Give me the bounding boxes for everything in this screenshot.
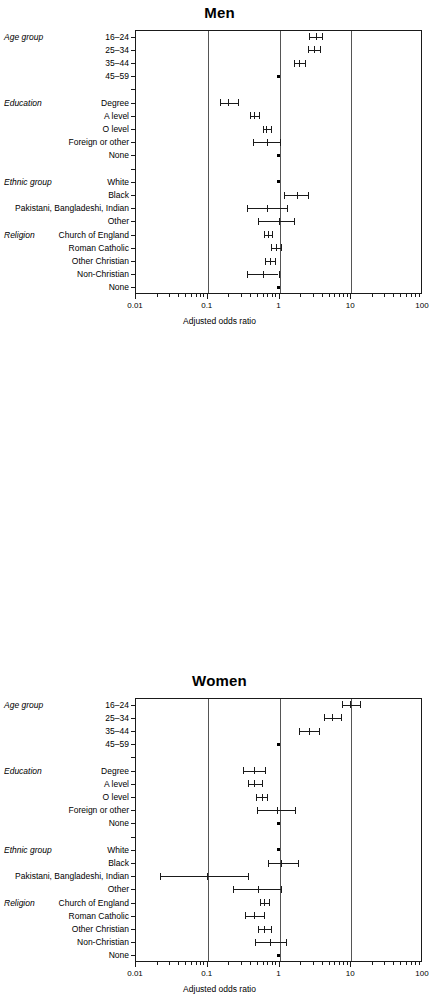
- row-label: 45–59: [105, 740, 129, 749]
- point-estimate-marker: [281, 860, 282, 867]
- ci-cap-upper: [294, 218, 295, 225]
- ci-cap-upper: [360, 701, 361, 708]
- reference-point-marker: [277, 954, 280, 957]
- row-label: Church of England: [59, 230, 129, 239]
- row-label: A level: [104, 111, 129, 120]
- point-estimate-marker: [228, 99, 229, 106]
- group-label-ethnic-group: Ethnic group: [4, 845, 52, 854]
- ci-cap-lower: [250, 112, 251, 119]
- x-axis-minor-tick: [419, 294, 420, 297]
- ci-cap-upper: [279, 271, 280, 278]
- reference-point-marker: [277, 75, 280, 78]
- ci-cap-upper: [238, 99, 239, 106]
- group-label-age-group: Age group: [4, 32, 43, 41]
- ci-cap-upper: [305, 60, 306, 67]
- x-axis-minor-tick: [185, 962, 186, 965]
- y-axis-tick: [131, 889, 135, 890]
- ci-cap-lower: [342, 701, 343, 708]
- y-axis-tick: [131, 129, 135, 130]
- ci-cap-lower: [260, 899, 261, 906]
- x-axis-minor-tick: [406, 294, 407, 297]
- point-estimate-marker: [264, 899, 265, 906]
- ci-cap-lower: [248, 780, 249, 787]
- point-estimate-marker: [316, 33, 317, 40]
- row-label: None: [109, 151, 129, 160]
- y-axis-tick: [131, 876, 135, 877]
- ci-cap-lower: [255, 939, 256, 946]
- reference-point-marker: [277, 848, 280, 851]
- ci-cap-lower: [233, 886, 234, 893]
- x-axis-title: Adjusted odds ratio: [0, 316, 439, 326]
- x-axis-minor-tick: [157, 962, 158, 965]
- x-axis-minor-tick: [411, 294, 412, 297]
- y-axis-tick: [131, 744, 135, 745]
- row-label: Pakistani, Bangladeshi, Indian: [15, 204, 129, 213]
- x-axis-tick-label: 0.1: [201, 969, 212, 978]
- x-axis-minor-tick: [347, 294, 348, 297]
- row-label: 16–24: [105, 700, 129, 709]
- x-axis-minor-tick: [196, 294, 197, 297]
- ci-cap-upper: [259, 112, 260, 119]
- group-label-religion: Religion: [4, 898, 35, 907]
- x-axis-minor-tick: [322, 294, 323, 297]
- ci-cap-lower: [263, 126, 264, 133]
- point-estimate-marker: [267, 139, 268, 146]
- point-estimate-marker: [254, 780, 255, 787]
- x-axis-minor-tick: [400, 962, 401, 965]
- y-axis-tick: [131, 235, 135, 236]
- x-axis-minor-tick: [343, 962, 344, 965]
- row-label: 35–44: [105, 59, 129, 68]
- x-axis-minor-tick: [343, 294, 344, 297]
- x-axis-tick-label: 1: [276, 301, 280, 310]
- x-axis-minor-tick: [406, 962, 407, 965]
- reference-point-marker: [277, 822, 280, 825]
- row-label: None: [109, 819, 129, 828]
- y-axis-tick: [131, 76, 135, 77]
- row-label: O level: [103, 125, 129, 134]
- ci-cap-upper: [262, 780, 263, 787]
- x-axis-minor-tick: [203, 962, 204, 965]
- y-axis-tick: [131, 63, 135, 64]
- x-axis-minor-tick: [393, 294, 394, 297]
- x-axis-minor-tick: [415, 294, 416, 297]
- x-axis-minor-tick: [257, 294, 258, 297]
- x-axis-minor-tick: [279, 962, 280, 967]
- ci-cap-lower: [308, 46, 309, 53]
- ci-cap-lower: [256, 794, 257, 801]
- x-axis-minor-tick: [169, 962, 170, 965]
- point-estimate-marker: [276, 244, 277, 251]
- y-axis-tick: [131, 757, 135, 758]
- x-axis-minor-tick: [207, 962, 208, 967]
- point-estimate-marker: [258, 886, 259, 893]
- row-label: Pakistani, Bangladeshi, Indian: [15, 872, 129, 881]
- point-estimate-marker: [332, 714, 333, 721]
- x-axis-minor-tick: [263, 962, 264, 965]
- point-estimate-marker: [266, 126, 267, 133]
- row-label: Degree: [101, 98, 129, 107]
- point-estimate-marker: [263, 271, 264, 278]
- ci-cap-lower: [264, 231, 265, 238]
- group-label-religion: Religion: [4, 230, 35, 239]
- point-estimate-marker: [254, 912, 255, 919]
- ci-cap-upper: [287, 205, 288, 212]
- chart-panel-women: Women16–2425–3435–4445–59DegreeA levelO …: [0, 668, 439, 998]
- x-axis-minor-tick: [384, 962, 385, 965]
- ci-cap-lower: [258, 218, 259, 225]
- point-estimate-marker: [297, 192, 298, 199]
- x-axis-minor-tick: [257, 962, 258, 965]
- x-axis-minor-tick: [372, 962, 373, 965]
- x-axis-minor-tick: [135, 294, 136, 299]
- group-label-ethnic-group: Ethnic group: [4, 177, 52, 186]
- ci-cap-upper: [298, 860, 299, 867]
- point-estimate-marker: [268, 231, 269, 238]
- y-axis-tick: [131, 903, 135, 904]
- chart-title: Men: [0, 4, 439, 21]
- ci-cap-upper: [319, 728, 320, 735]
- ci-cap-upper: [271, 126, 272, 133]
- point-estimate-marker: [277, 807, 278, 814]
- ci-cap-lower: [309, 33, 310, 40]
- row-label: Non-Christian: [77, 938, 129, 947]
- point-estimate-marker: [299, 60, 300, 67]
- ci-cap-upper: [269, 899, 270, 906]
- y-axis-tick: [131, 810, 135, 811]
